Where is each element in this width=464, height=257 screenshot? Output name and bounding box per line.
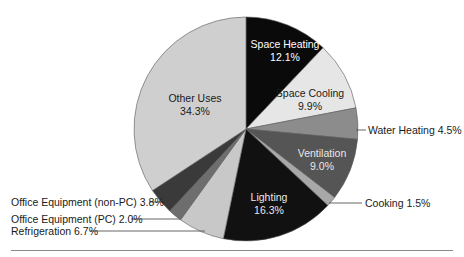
label-other-uses-name: Other Uses [168, 92, 221, 104]
pie-slices [134, 17, 358, 241]
bottom-rule [11, 250, 453, 251]
pie-chart: Space Heating 12.1% Space Cooling 9.9% V… [0, 0, 464, 257]
label-other-uses-pct: 34.3% [180, 105, 210, 117]
label-lighting-name: Lighting [251, 191, 288, 203]
label-ventilation-name: Ventilation [298, 147, 347, 159]
label-space-cooling-name: Space Cooling [276, 87, 344, 99]
label-water-heating: Water Heating 4.5% [368, 124, 462, 136]
label-ventilation-pct: 9.0% [310, 160, 334, 172]
label-lighting-pct: 16.3% [254, 204, 284, 216]
label-office-non-pc: Office Equipment (non-PC) 3.8% [11, 196, 164, 208]
label-space-cooling-pct: 9.9% [298, 100, 322, 112]
label-refrigeration: Refrigeration 6.7% [11, 225, 98, 237]
label-space-heating-pct: 12.1% [270, 51, 300, 63]
label-office-pc: Office Equipment (PC) 2.0% [11, 213, 143, 225]
label-cooking: Cooking 1.5% [365, 197, 430, 209]
label-space-heating-name: Space Heating [251, 38, 320, 50]
